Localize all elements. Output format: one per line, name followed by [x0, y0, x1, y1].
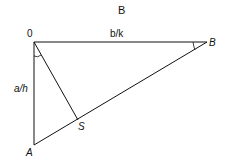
label-edge-OB: b/k [110, 29, 123, 39]
label-edge-OA: a/h [14, 84, 28, 94]
edge-AB [34, 42, 207, 145]
label-O: 0 [27, 29, 33, 39]
label-S: S [78, 122, 85, 132]
edge-OS [34, 42, 78, 120]
label-B: B [209, 38, 216, 48]
label-A: A [26, 148, 33, 158]
angle-arc-B [193, 42, 195, 50]
triangle-diagram [0, 0, 233, 166]
angle-arc-O [34, 55, 41, 57]
